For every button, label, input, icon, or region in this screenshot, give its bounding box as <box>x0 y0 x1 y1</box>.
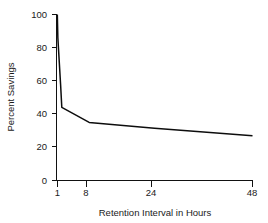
y-tick-label-80: 80 <box>36 42 47 53</box>
y-tick-label-20: 20 <box>36 141 47 152</box>
data-series-percent-savings <box>57 15 252 136</box>
y-tick-label-100: 100 <box>31 9 47 20</box>
y-tick-label-0: 0 <box>42 175 47 186</box>
x-tick-label-8: 8 <box>83 187 88 198</box>
x-tick-marks <box>58 181 253 187</box>
x-axis-title: Retention Interval in Hours <box>99 207 212 218</box>
forgetting-curve-figure: 100 80 60 40 20 0 1 8 24 48 Retention In… <box>0 0 268 223</box>
x-tick-label-24: 24 <box>146 187 157 198</box>
x-tick-label-1: 1 <box>55 187 60 198</box>
y-tick-marks <box>52 15 57 181</box>
y-axis-title: Percent Savings <box>5 62 16 131</box>
y-tick-label-60: 60 <box>36 75 47 86</box>
chart-canvas: 100 80 60 40 20 0 1 8 24 48 Retention In… <box>0 0 268 223</box>
y-tick-label-40: 40 <box>36 108 47 119</box>
x-tick-label-48: 48 <box>247 187 258 198</box>
